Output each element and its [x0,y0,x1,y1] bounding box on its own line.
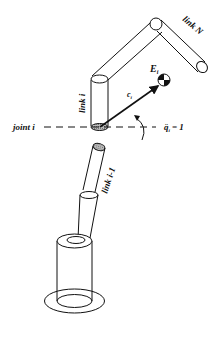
end-effector-com-icon [158,74,170,86]
label-vector-c-i: ci [127,90,133,100]
link-i-minus-1-lower-edge [90,195,98,238]
link-i-minus-1-top-cap [92,142,105,152]
label-link-i: link i [77,93,87,113]
elbow-joint [150,18,162,30]
base-flange-inner [57,295,92,308]
robot-arm-diagram: link N link i link i-1 joint i Ei ci q̈i… [0,0,220,337]
link-i-minus-1-lower-edge [78,195,80,239]
label-link-n: link N [181,14,206,37]
base-flange [45,289,105,313]
label-end-effector: Ei [149,63,159,75]
link-i-minus-1-edge [83,146,93,190]
label-joint-acceleration: q̈i= 1 [164,122,184,133]
label-link-i-minus-1: link i-1 [99,166,117,195]
link-i-minus-1-mid-ring [80,192,98,199]
link-n-end-cap [194,59,209,75]
link-i-top-cap [91,75,108,83]
base-group [45,234,105,313]
rotation-arc [136,118,144,140]
label-joint-i: joint i [11,122,35,132]
link-n-edge [157,31,198,72]
